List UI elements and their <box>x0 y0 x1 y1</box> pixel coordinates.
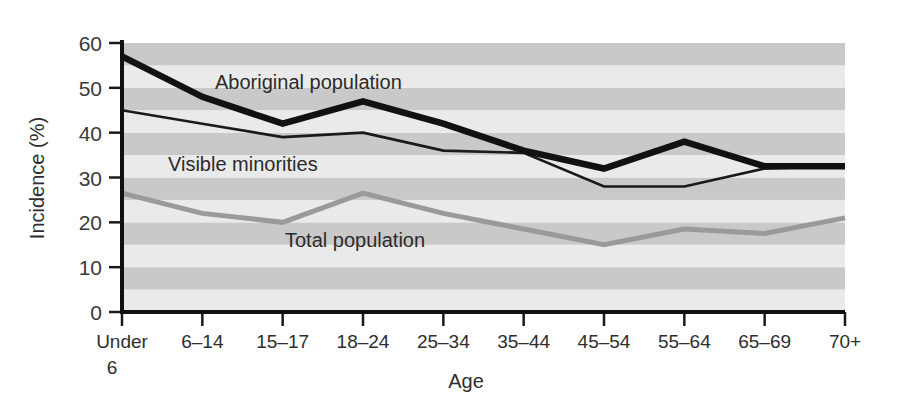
x-tick-label: 45–54 <box>578 331 631 352</box>
series-label-total-population: Total population <box>285 229 425 251</box>
chart-container: 0102030405060 Under66–1415–1718–2425–343… <box>0 0 905 408</box>
y-tick-label: 30 <box>79 167 102 190</box>
y-tick-label: 50 <box>79 77 102 100</box>
x-tick-label: 70+ <box>829 331 861 352</box>
y-tick-label: 20 <box>79 211 102 234</box>
series-label-visible-minorities: Visible minorities <box>168 153 318 175</box>
x-tick-label-line2: 6 <box>107 357 118 378</box>
y-tick-label: 10 <box>79 256 102 279</box>
x-tick-label: 55–64 <box>658 331 711 352</box>
grid-band <box>122 43 845 65</box>
y-tick-label: 0 <box>90 301 102 324</box>
grid-band <box>122 290 845 312</box>
x-tick-label: 35–44 <box>497 331 550 352</box>
x-tick-label: 25–34 <box>417 331 470 352</box>
y-tick-label: 40 <box>79 122 102 145</box>
x-tick-label: 18–24 <box>337 331 390 352</box>
grid-band <box>122 178 845 200</box>
x-tick-label: 15–17 <box>256 331 309 352</box>
x-axis-title: Age <box>448 370 484 392</box>
x-tick-label: Under <box>96 331 148 352</box>
incidence-by-age-line-chart: 0102030405060 Under66–1415–1718–2425–343… <box>0 0 905 408</box>
y-axis-title: Incidence (%) <box>26 117 48 239</box>
x-tick-label: 65–69 <box>738 331 791 352</box>
grid-band <box>122 267 845 289</box>
grid-band <box>122 245 845 267</box>
x-tick-label: 6–14 <box>181 331 224 352</box>
series-label-aboriginal-population: Aboriginal population <box>215 71 402 93</box>
y-tick-label: 60 <box>79 32 102 55</box>
